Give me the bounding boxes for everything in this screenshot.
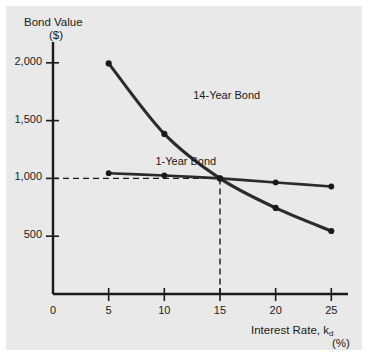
- x-tick-label: 25: [316, 305, 346, 317]
- plot-canvas: [6, 6, 362, 350]
- x-tick-label: 15: [205, 305, 235, 317]
- intersection-guides: [53, 178, 220, 294]
- y-tick-label: 1,000: [6, 171, 42, 183]
- chart-figure: Bond Value ($) Interest Rate, kd (%) 500…: [6, 6, 362, 350]
- y-tick-label: 500: [6, 229, 42, 241]
- series-label-1-year-bond: 1-Year Bond: [155, 156, 216, 168]
- series-14-year-bond-markers: [106, 60, 335, 234]
- x-tick-label: 20: [261, 305, 291, 317]
- series-1-year-bond-markers: [106, 170, 334, 189]
- y-tick-label: 2,000: [6, 56, 42, 68]
- y-tick-label: 1,500: [6, 114, 42, 126]
- x-tick-label: 5: [94, 305, 124, 317]
- series-label-14-year-bond: 14-Year Bond: [193, 90, 260, 102]
- x-tick-label: 10: [149, 305, 179, 317]
- x-tick-label: 0: [38, 305, 68, 317]
